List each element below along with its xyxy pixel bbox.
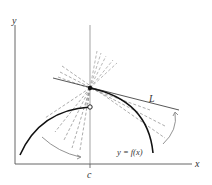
x-axis-label: x: [194, 158, 200, 169]
upper-secant-lines: [90, 51, 117, 88]
curve-right-branch: [90, 88, 153, 153]
filled-point: [88, 86, 92, 90]
c-label: c: [87, 169, 92, 180]
y-axis-label: y: [11, 15, 17, 26]
derivative-diagram: y x c L y = f(x): [0, 0, 212, 185]
curve-label: y = f(x): [116, 147, 143, 157]
tangent-label: L: [148, 93, 155, 104]
right-approach-arrow: [163, 113, 176, 144]
axes: [15, 25, 192, 168]
left-approach-arrow: [42, 137, 80, 157]
curve-left-branch: [20, 107, 90, 155]
tangent-line: [53, 78, 179, 110]
left-secant-lines: [45, 88, 90, 150]
open-point: [88, 105, 92, 109]
